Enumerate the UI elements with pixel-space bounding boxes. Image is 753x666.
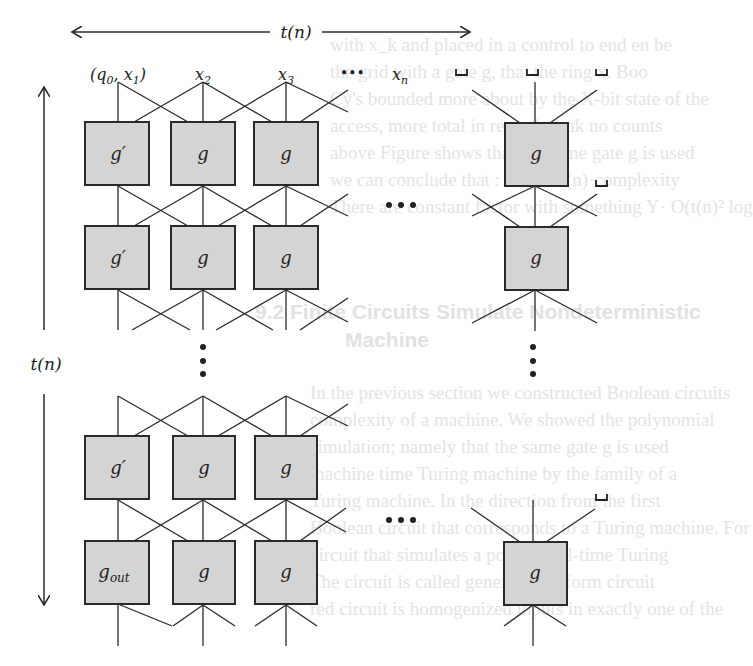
- gate-label: g: [280, 143, 292, 164]
- gate-label: g: [280, 561, 292, 582]
- gate-label: g: [198, 457, 210, 478]
- vertical-ellipsis-last-col: [530, 344, 536, 377]
- gate-label: g: [280, 247, 292, 268]
- input-label-xn: xn: [392, 65, 408, 87]
- horizontal-ellipsis-row2: [386, 202, 416, 208]
- blank-symbol-icon: [596, 69, 607, 75]
- gate-label: g: [198, 561, 210, 582]
- blank-symbol-icon: [596, 494, 607, 500]
- ellipses: [200, 202, 536, 523]
- gate-label: g′: [110, 457, 126, 478]
- input-ellipsis: •••: [340, 65, 365, 81]
- gate-label: g: [197, 143, 209, 164]
- gate-label: g′: [110, 143, 126, 164]
- input-labels: (q0, x1) x2 x3 ••• xn: [90, 65, 408, 87]
- gates: [85, 122, 568, 605]
- vertical-time-arrow: t(n): [30, 87, 61, 605]
- gate-label: g: [530, 143, 542, 164]
- vertical-axis-label: t(n): [30, 354, 61, 374]
- blank-symbol-icon: [596, 180, 607, 186]
- gate-label: g: [280, 457, 292, 478]
- blank-symbol-icon: [527, 69, 538, 75]
- gate-label: g: [529, 562, 541, 583]
- gate-label: g′: [110, 247, 126, 268]
- horizontal-ellipsis-row4: [386, 517, 416, 523]
- horizontal-axis-label: t(n): [280, 22, 311, 42]
- blank-symbol-icon: [456, 69, 467, 75]
- gate-label: g: [197, 247, 209, 268]
- vertical-ellipsis-col2: [200, 344, 206, 377]
- horizontal-time-arrow: t(n): [72, 22, 470, 42]
- gate-label: g: [530, 247, 542, 268]
